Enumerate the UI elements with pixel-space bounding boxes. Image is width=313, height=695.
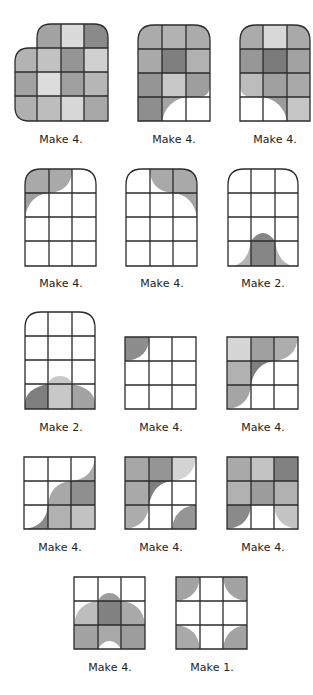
unit-8-label: Make 4. [116,421,206,434]
square-block-icon [227,337,298,409]
unit-7-label: Make 2. [16,421,106,434]
unit-11-diagram [125,457,196,529]
square-block-icon [24,457,95,529]
unit-6-diagram [228,169,298,266]
unit-13-diagram [74,577,145,649]
unit-12-label: Make 4. [218,541,308,554]
arch-block-icon [228,169,298,266]
arch-block-icon [138,25,210,121]
unit-8-diagram [125,337,196,409]
square-block-icon [125,457,196,529]
unit-14-label: Make 1. [167,661,257,674]
square-block-icon [227,457,298,529]
unit-11-label: Make 4. [116,541,206,554]
unit-4-diagram [25,169,96,266]
unit-10-diagram [24,457,95,529]
unit-9-label: Make 4. [218,421,308,434]
unit-5-label: Make 4. [117,277,207,290]
square-block-icon [176,577,247,649]
arch-block-icon [126,169,197,266]
square-block-icon [125,337,196,409]
arch-block-icon [25,312,95,409]
arch-block-icon [240,25,310,121]
unit-6-label: Make 2. [218,277,308,290]
unit-5-diagram [126,169,197,266]
heart-lobe-block-icon [15,24,108,121]
unit-3-diagram [240,25,310,121]
square-block-icon [74,577,145,649]
unit-14-diagram [176,577,247,649]
unit-7-diagram [25,312,95,409]
unit-2-diagram [138,25,210,121]
unit-10-label: Make 4. [15,541,105,554]
unit-13-label: Make 4. [65,661,155,674]
unit-4-label: Make 4. [16,277,106,290]
unit-2-label: Make 4. [129,133,219,146]
unit-12-diagram [227,457,298,529]
unit-3-label: Make 4. [230,133,313,146]
unit-1-diagram [15,24,108,121]
unit-9-diagram [227,337,298,409]
arch-block-icon [25,169,96,266]
unit-1-label: Make 4. [16,133,106,146]
